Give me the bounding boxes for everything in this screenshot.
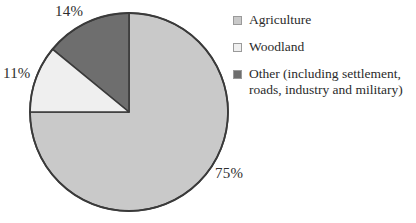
- pie-label-woodland-percent: 11%: [3, 66, 31, 81]
- legend-item-other: Other (including settlement, roads, indu…: [233, 66, 416, 98]
- pie-label-other-percent: 14%: [55, 4, 83, 19]
- legend-label-other-line1: Other (including settlement,: [249, 66, 401, 81]
- legend-item-agriculture: Agriculture: [233, 12, 416, 28]
- legend-label-other-line2: roads, industry and military): [249, 82, 403, 98]
- legend-swatch-other: [233, 70, 242, 79]
- pie-label-agriculture-percent: 75%: [215, 166, 243, 181]
- legend-label-woodland: Woodland: [249, 39, 304, 55]
- legend: Agriculture Woodland Other (including se…: [233, 12, 416, 109]
- legend-label-agriculture: Agriculture: [249, 12, 311, 28]
- pie-plot-area: 14% 11% 75%: [0, 0, 240, 223]
- pie-svg: [0, 0, 240, 223]
- legend-label-other: Other (including settlement, roads, indu…: [249, 66, 403, 98]
- legend-item-woodland: Woodland: [233, 39, 416, 55]
- pie-chart: 14% 11% 75% Agriculture Woodland Other (…: [0, 0, 416, 223]
- legend-swatch-agriculture: [233, 16, 242, 25]
- legend-swatch-woodland: [233, 43, 242, 52]
